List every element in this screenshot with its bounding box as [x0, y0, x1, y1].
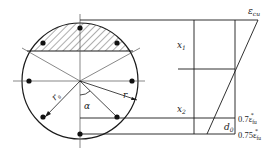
d0-label: d0: [224, 122, 234, 133]
angle-label: α: [84, 101, 90, 111]
angle-arc: [80, 91, 90, 95]
x1-label: x1: [177, 40, 186, 51]
strain-label-075: 0.75εfu*: [238, 128, 261, 141]
epsilon-cu-label: εcu: [248, 6, 260, 17]
strain-label-07: 0.7εfu*: [238, 112, 257, 125]
radius-label: r: [123, 90, 128, 100]
strain-diagram: r rs α εcu x1 x2 d0 0.7εfu* 0.75εfu*: [0, 0, 278, 157]
x2-label: x2: [177, 104, 186, 115]
